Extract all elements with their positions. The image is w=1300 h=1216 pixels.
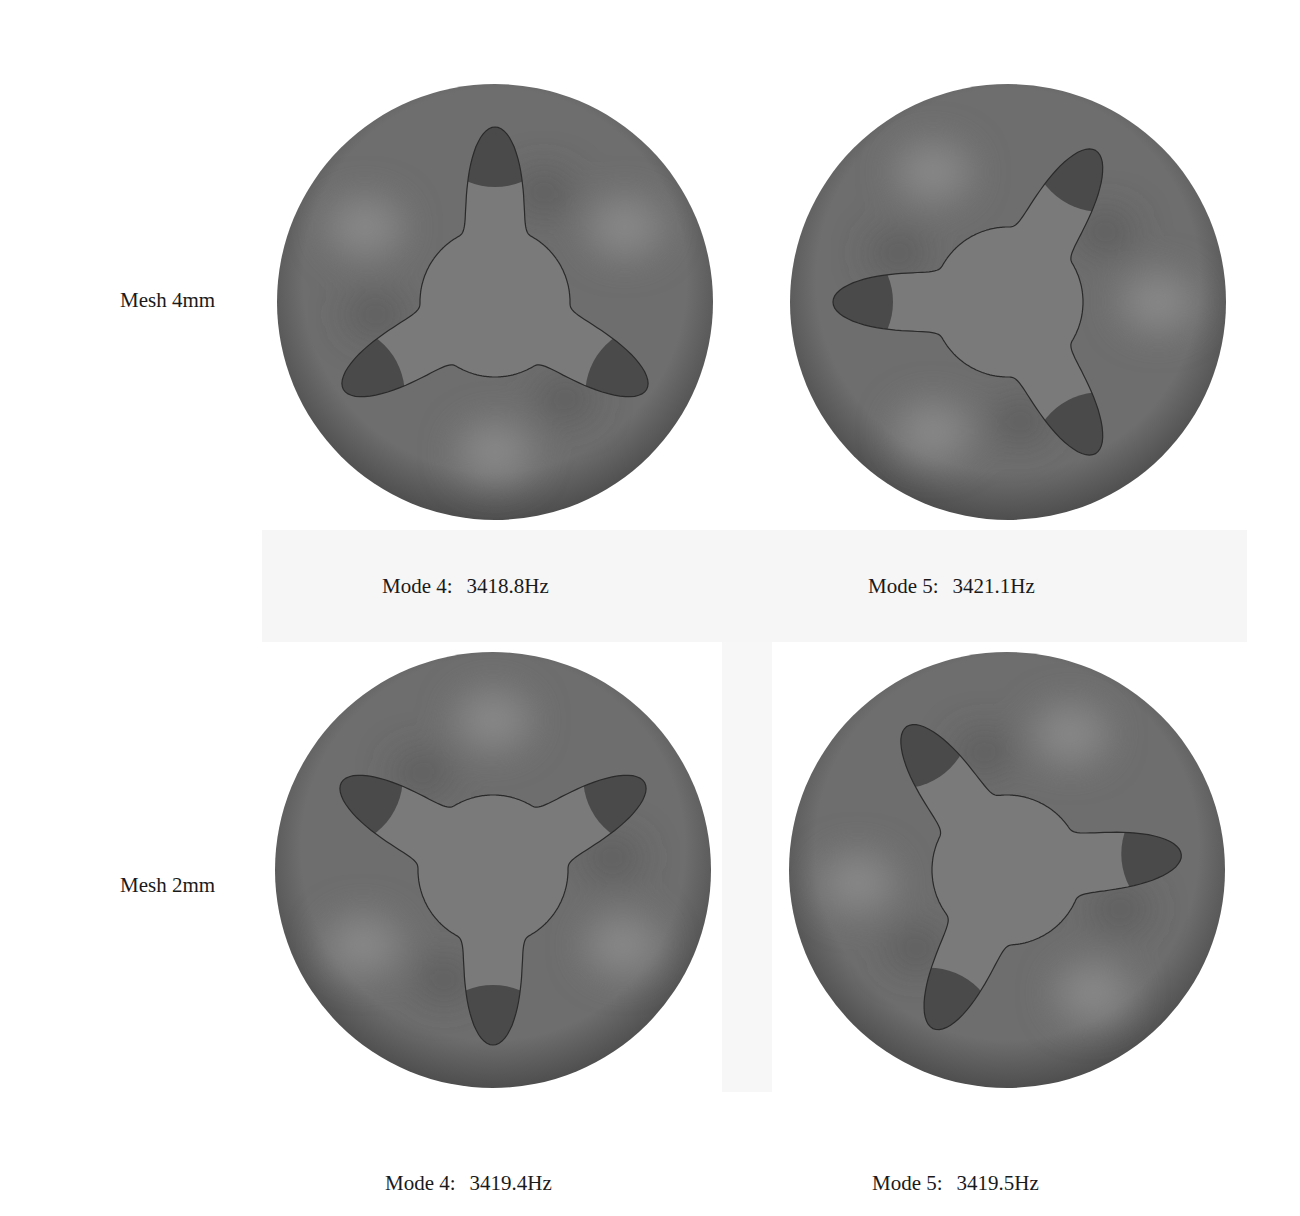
mode-number: Mode 5: [868, 574, 939, 598]
caption-mesh4-mode5: Mode 5:3421.1Hz [868, 574, 1035, 599]
mode-shape-disk-mesh4-mode4 [270, 77, 720, 527]
caption-mesh4-mode4: Mode 4:3418.8Hz [382, 574, 549, 599]
mode-shape-disk-mesh2-mode4 [268, 645, 718, 1095]
row-label-mesh-4mm: Mesh 4mm [120, 288, 215, 313]
mode-frequency: 3421.1Hz [953, 574, 1035, 598]
mode-frequency: 3419.4Hz [470, 1171, 552, 1195]
caption-mesh2-mode4: Mode 4:3419.4Hz [385, 1171, 552, 1196]
mode-shape-disk-mesh2-mode5 [782, 645, 1232, 1095]
row-label-mesh-2mm: Mesh 2mm [120, 873, 215, 898]
mode-number: Mode 4: [385, 1171, 456, 1195]
caption-mesh2-mode5: Mode 5:3419.5Hz [872, 1171, 1039, 1196]
mode-frequency: 3419.5Hz [957, 1171, 1039, 1195]
caption-band-vertical [722, 642, 772, 1092]
mode-number: Mode 5: [872, 1171, 943, 1195]
mode-number: Mode 4: [382, 574, 453, 598]
mode-shape-disk-mesh4-mode5 [783, 77, 1233, 527]
mode-frequency: 3418.8Hz [467, 574, 549, 598]
